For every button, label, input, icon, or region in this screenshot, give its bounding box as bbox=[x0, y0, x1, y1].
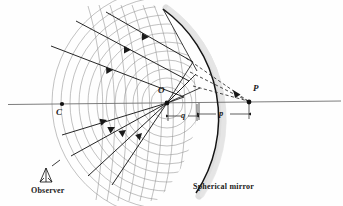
label-observer-caption: Observer bbox=[31, 187, 65, 195]
principal-axis bbox=[8, 101, 341, 105]
virtual-ray-arrowhead bbox=[233, 90, 241, 98]
label-center-of-curvature: C bbox=[56, 108, 62, 117]
label-object-point: O bbox=[158, 86, 165, 95]
label-image-point: P bbox=[253, 84, 259, 93]
ray-diagram-svg bbox=[0, 0, 343, 206]
observer-eye-icon bbox=[40, 160, 60, 182]
point-dot-O bbox=[165, 101, 170, 106]
label-image-distance-q: q bbox=[181, 111, 185, 120]
point-dot-C bbox=[60, 102, 64, 106]
point-dot-P bbox=[247, 100, 252, 105]
figure-canvas: C O P q p Spherical mirror Observer bbox=[0, 0, 343, 206]
label-mirror-caption: Spherical mirror bbox=[193, 183, 254, 191]
label-object-distance-p: p bbox=[219, 109, 223, 118]
